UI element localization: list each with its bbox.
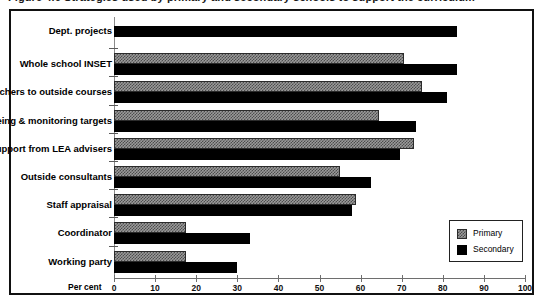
y-group-tick [109,105,118,106]
y-group-tick [109,76,118,77]
y-group-tick [109,189,118,190]
x-tick-label: 90 [479,283,488,293]
x-tick-label: 40 [274,283,283,293]
x-tick [320,275,321,282]
bar-primary [114,194,356,205]
x-tick-label: 30 [233,283,242,293]
bar-primary [114,53,404,64]
x-tick-label: 60 [356,283,365,293]
bar-primary [114,110,379,121]
legend-label-secondary: Secondary [473,244,514,254]
bar-primary [114,81,422,92]
x-tick [196,275,197,282]
bar-secondary [114,64,457,75]
legend: Primary Secondary [449,220,523,262]
category-label: Whole school INSET [0,59,112,70]
x-tick [402,275,403,282]
y-group-tick [109,246,118,247]
figure-title-strip: Figure 4.6 Strategies used by primary an… [0,0,543,9]
x-tick-label: 0 [112,283,117,293]
x-tick-label: 100 [518,283,532,293]
x-tick [484,275,485,282]
category-label: Outside consultants [0,172,112,183]
y-group-tick [109,217,118,218]
x-tick [525,275,526,282]
category-label: Key teachers to outside courses [0,87,112,98]
x-tick-label: 80 [438,283,447,293]
x-tick [443,275,444,282]
y-group-tick [109,48,118,49]
bar-primary [114,222,186,233]
category-label: Staff appraisal [0,200,112,211]
x-tick-label: 20 [191,283,200,293]
legend-swatch-secondary-icon [457,245,467,255]
x-tick [361,275,362,282]
x-tick [155,275,156,282]
bar-secondary [114,121,416,132]
y-group-tick [109,133,118,134]
category-label: Support from LEA advisers [0,144,112,155]
x-axis-title: Per cent [68,282,102,292]
chart-frame: Per cent 0102030405060708090100 Dept. pr… [9,9,534,295]
category-label: Working party [0,256,112,267]
bar-primary [114,251,186,262]
page-title: Figure 4.6 Strategies used by primary an… [8,0,475,3]
x-tick-label: 70 [397,283,406,293]
plot-area: Per cent 0102030405060708090100 Dept. pr… [11,11,532,293]
bar-secondary [114,26,457,37]
bar-secondary [114,177,371,188]
bar-secondary [114,233,250,244]
bar-secondary [114,262,237,273]
x-tick [278,275,279,282]
bar-secondary [114,92,447,103]
x-tick [114,275,115,282]
category-label: Agreeing & monitoring targets [0,115,112,126]
legend-label-primary: Primary [473,228,502,238]
x-tick-label: 50 [315,283,324,293]
bar-primary [114,138,414,149]
x-tick [237,275,238,282]
x-tick-label: 10 [150,283,159,293]
category-label: Coordinator [0,228,112,239]
category-label: Dept. projects [0,26,112,37]
y-group-tick [109,161,118,162]
legend-swatch-primary-icon [457,229,467,239]
bar-secondary [114,205,352,216]
bar-primary [114,166,340,177]
bar-secondary [114,149,400,160]
